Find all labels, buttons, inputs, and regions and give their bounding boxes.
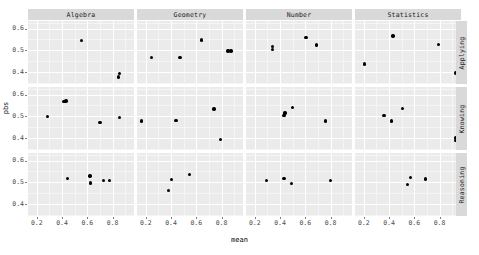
data-point [88,174,91,177]
gridline-minor [49,153,50,216]
figure-caption [0,248,479,254]
facet-strip-reasoning: Reasoning [456,153,467,216]
data-point [291,106,294,109]
y-tick-label: 0.6 [2,157,24,164]
gridline-major [355,50,461,51]
gridline-major [331,21,332,84]
gridline-minor [355,39,461,40]
gridline-major [246,138,352,139]
gridline-minor [355,149,461,150]
gridline-minor [234,153,235,216]
gridline-major [355,72,461,73]
gridline-major [355,138,461,139]
gridline-major [87,87,88,150]
gridline-minor [125,87,126,150]
gridline-major [355,161,461,162]
gridline-major [28,204,134,205]
gridline-major [137,161,243,162]
panel-geometry-applying [137,21,243,84]
facet-strip-statistics: Statistics [355,9,461,20]
gridline-minor [137,149,243,150]
gridline-minor [343,21,344,84]
gridline-major [255,21,256,84]
gridline-minor [293,153,294,216]
gridline-major [440,21,441,84]
panel-algebra-applying [28,21,134,84]
facet-strip-label: Reasoning [458,166,466,203]
data-point [140,119,143,122]
panel-geometry-knowing [137,87,243,150]
gridline-major [196,21,197,84]
data-point [212,107,215,110]
y-tick-label: 0.5 [2,179,24,186]
x-tick-label: 0.4 [53,220,71,227]
gridline-minor [125,21,126,84]
gridline-major [171,153,172,216]
gridline-major [246,116,352,117]
gridline-minor [184,87,185,150]
gridline-major [146,87,147,150]
gridline-minor [28,61,134,62]
gridline-major [37,21,38,84]
x-tick-label: 0.8 [322,220,340,227]
data-point [315,43,318,46]
gridline-major [62,87,63,150]
gridline-minor [246,193,352,194]
data-point [200,38,203,41]
gridline-major [246,204,352,205]
gridline-minor [75,153,76,216]
y-tick-mark [25,95,27,96]
gridline-major [246,95,352,96]
x-tick-label: 0.4 [380,220,398,227]
y-tick-label: 0.4 [2,201,24,208]
gridline-major [146,153,147,216]
gridline-major [246,182,352,183]
facet-strip-number: Number [246,9,352,20]
data-point [282,177,285,180]
gridline-major [171,87,172,150]
gridline-minor [209,21,210,84]
gridline-major [280,21,281,84]
gridline-minor [209,153,210,216]
data-point [409,176,412,179]
gridline-minor [137,23,243,24]
gridline-minor [355,61,461,62]
x-tick-label: 0.6 [187,220,205,227]
data-point [282,114,285,117]
gridline-minor [402,87,403,150]
y-tick-mark [25,182,27,183]
gridline-minor [293,21,294,84]
y-tick-mark [25,72,27,73]
gridline-major [364,21,365,84]
y-tick-mark [25,138,27,139]
gridline-major [28,50,134,51]
gridline-minor [28,171,134,172]
data-point [178,56,181,59]
gridline-major [137,72,243,73]
gridline-major [246,72,352,73]
gridline-major [355,116,461,117]
facet-strip-knowing: Knowing [456,87,467,150]
y-tick-mark [25,116,27,117]
gridline-minor [427,153,428,216]
gridline-minor [246,127,352,128]
gridline-minor [318,21,319,84]
gridline-major [355,29,461,30]
x-tick-label: 0.8 [213,220,231,227]
y-tick-label: 0.4 [2,135,24,142]
facet-strip-algebra: Algebra [28,9,134,20]
panel-statistics-reasoning [355,153,461,216]
gridline-minor [427,87,428,150]
y-tick-label: 0.6 [2,25,24,32]
gridline-major [414,153,415,216]
gridline-minor [100,87,101,150]
gridline-major [389,21,390,84]
facet-strip-label: Applying [458,36,466,69]
gridline-minor [137,83,243,84]
gridline-minor [355,215,461,216]
x-tick-label: 0.6 [296,220,314,227]
gridline-major [355,95,461,96]
gridline-minor [355,105,461,106]
gridline-minor [246,39,352,40]
y-tick-label: 0.5 [2,113,24,120]
